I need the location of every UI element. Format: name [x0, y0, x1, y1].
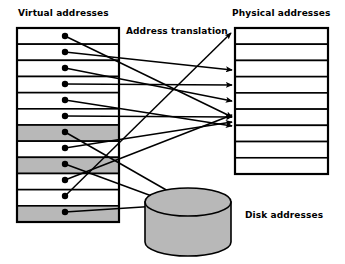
source-dot-row-1[interactable]: [62, 33, 68, 39]
physical-row-9[interactable]: [235, 158, 328, 174]
source-dot-row-4[interactable]: [62, 81, 68, 87]
diagram-canvas: Virtual addresses Address translation Ph…: [0, 0, 345, 264]
disk-top-surface[interactable]: [145, 188, 231, 216]
physical-address-table: [235, 28, 328, 174]
physical-row-7[interactable]: [235, 125, 328, 141]
source-dot-row-3[interactable]: [62, 65, 68, 71]
source-dot-row-8[interactable]: [62, 145, 68, 151]
source-dot-row-6[interactable]: [62, 113, 68, 119]
physical-row-5[interactable]: [235, 93, 328, 109]
physical-row-4[interactable]: [235, 77, 328, 93]
virtual-row-10[interactable]: [17, 174, 119, 190]
source-dot-row-12[interactable]: [62, 209, 68, 215]
source-dot-row-5[interactable]: [62, 97, 68, 103]
physical-row-2[interactable]: [235, 44, 328, 60]
source-dot-row-11[interactable]: [62, 193, 68, 199]
source-dot-row-7[interactable]: [62, 129, 68, 135]
physical-row-3[interactable]: [235, 60, 328, 76]
virtual-row-12[interactable]: [17, 206, 119, 222]
disk-cylinder: [145, 188, 231, 256]
source-dot-row-10[interactable]: [62, 177, 68, 183]
mapping-arrow-row-6-to-physical: [65, 116, 232, 117]
mapping-arrow-row-4-to-physical: [65, 84, 232, 85]
physical-row-6[interactable]: [235, 109, 328, 125]
source-dot-row-9[interactable]: [62, 161, 68, 167]
physical-row-1[interactable]: [235, 28, 328, 44]
source-dot-row-2[interactable]: [62, 49, 68, 55]
physical-row-8[interactable]: [235, 142, 328, 158]
diagram-graphics: [0, 0, 345, 264]
